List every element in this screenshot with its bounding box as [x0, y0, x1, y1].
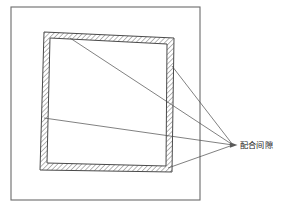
leader-arrowhead-icon	[230, 142, 238, 148]
wall-hatch-fill	[40, 32, 174, 172]
leader-right-band	[172, 66, 233, 145]
fit-clearance-label: 配合间隙	[240, 140, 273, 150]
wall-inner-outline	[47, 38, 167, 166]
leader-lines-group	[44, 38, 233, 168]
diagram-svg: 配合间隙	[0, 0, 286, 212]
leader-top-band	[70, 38, 233, 145]
leader-left-band	[44, 118, 233, 145]
wall-outer-outline	[40, 32, 174, 172]
figure-canvas: 配合间隙	[0, 0, 286, 212]
